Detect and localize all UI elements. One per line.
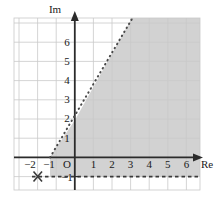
y-tick-label-3: 3 — [64, 93, 70, 105]
y-tick-label-6: 6 — [64, 36, 70, 48]
y-tick-label-5: 5 — [64, 55, 70, 67]
x-tick-label-5: 5 — [165, 158, 171, 170]
y-tick-label-4: 4 — [64, 74, 70, 86]
origin-label: O — [63, 158, 71, 170]
argand-diagram-svg: Im Re O −2 −1 1 2 3 4 5 6 6 5 4 3 2 1 −1 — [0, 0, 220, 199]
x-tick-label-4: 4 — [146, 158, 152, 170]
y-tick-label-2: 2 — [64, 112, 70, 124]
x-tick-label-3: 3 — [128, 158, 134, 170]
x-tick-label-neg2: −2 — [24, 158, 36, 170]
complex-plane-figure: Im Re O −2 −1 1 2 3 4 5 6 6 5 4 3 2 1 −1 — [0, 0, 220, 199]
y-tick-label-neg1: −1 — [61, 171, 73, 183]
y-tick-label-1: 1 — [64, 132, 70, 144]
x-tick-label-1: 1 — [91, 158, 97, 170]
x-tick-label-2: 2 — [109, 158, 115, 170]
real-axis-label: Re — [201, 158, 213, 170]
imaginary-axis-arrow — [71, 11, 79, 21]
x-tick-label-neg1: −1 — [43, 158, 55, 170]
imaginary-axis-label: Im — [49, 3, 62, 15]
x-tick-label-6: 6 — [184, 158, 190, 170]
